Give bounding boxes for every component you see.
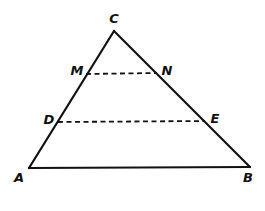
triangle-diagram: CABMNDE (0, 0, 265, 211)
side-AB (29, 167, 250, 168)
vertex-label-a: A (13, 170, 24, 185)
vertex-label-b: B (243, 170, 253, 185)
vertex-label-m: M (71, 63, 84, 78)
segment-MN (86, 73, 157, 74)
side-CB (114, 31, 250, 167)
segment-DE (58, 121, 205, 122)
vertex-label-e: E (211, 111, 220, 126)
vertex-label-c: C (109, 11, 119, 26)
vertex-label-n: N (162, 63, 173, 78)
side-CA (29, 31, 114, 168)
vertex-label-d: D (44, 112, 55, 127)
